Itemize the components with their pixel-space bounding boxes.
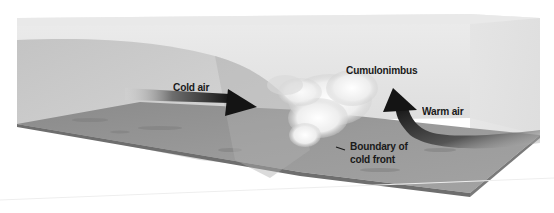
diagram-canvas bbox=[0, 0, 554, 213]
cold-air-label: Cold air bbox=[173, 81, 209, 94]
warm-air-label: Warm air bbox=[422, 105, 464, 118]
cold-front-diagram: Cold air Cumulonimbus Warm air Boundary … bbox=[0, 0, 554, 213]
boundary-label-line2: cold front bbox=[350, 153, 395, 166]
boundary-label-line1: Boundary of bbox=[350, 140, 408, 153]
cumulonimbus-label: Cumulonimbus bbox=[346, 64, 418, 77]
